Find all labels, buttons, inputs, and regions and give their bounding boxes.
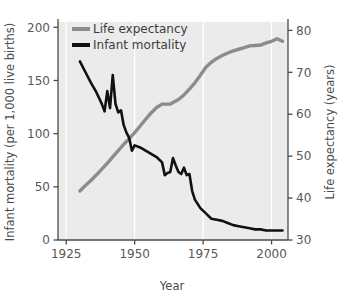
y-tick-label-left: 100 bbox=[27, 127, 50, 141]
dual-axis-line-chart: 1925195019752000 050100150200 3040506070… bbox=[0, 0, 344, 297]
y-tick-label-left: 0 bbox=[42, 233, 50, 247]
x-tick-label: 1950 bbox=[119, 247, 150, 261]
y-tick-label-left: 200 bbox=[27, 21, 50, 35]
x-tick-label: 2000 bbox=[256, 247, 287, 261]
x-tick-label: 1925 bbox=[51, 247, 82, 261]
x-axis-title: Year bbox=[159, 279, 185, 293]
legend-label-life-expectancy: Life expectancy bbox=[93, 22, 188, 36]
y-tick-label-right: 70 bbox=[296, 66, 311, 80]
plot-area bbox=[58, 22, 288, 240]
y-tick-label-right: 50 bbox=[296, 149, 311, 163]
y-axis-right-title: Life expectancy (years) bbox=[323, 64, 337, 199]
y-tick-label-right: 80 bbox=[296, 24, 311, 38]
y-tick-label-right: 60 bbox=[296, 107, 311, 121]
y-tick-label-right: 40 bbox=[296, 191, 311, 205]
x-tick-label: 1975 bbox=[188, 247, 219, 261]
y-tick-label-right: 30 bbox=[296, 233, 311, 247]
y-tick-label-left: 50 bbox=[35, 180, 50, 194]
chart-container: 1925195019752000 050100150200 3040506070… bbox=[0, 0, 344, 297]
y-tick-label-left: 150 bbox=[27, 74, 50, 88]
legend-label-infant-mortality: Infant mortality bbox=[93, 38, 186, 52]
y-axis-left-title: Infant mortality (per 1,000 live births) bbox=[3, 23, 17, 241]
